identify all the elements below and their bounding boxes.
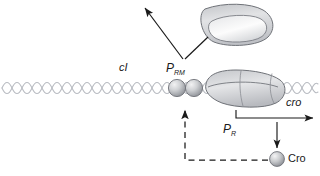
prm-promoter-label: PRM	[166, 61, 185, 75]
ci-gene-label: cI	[119, 61, 128, 73]
ci-repressor-sphere-right	[185, 79, 202, 96]
prm-pointer-arrow	[145, 8, 183, 59]
pr-promoter-label: PR	[223, 122, 236, 136]
pr-promoter-base: P	[223, 122, 231, 136]
figure-canvas	[0, 0, 320, 176]
pr-promoter-subscript: R	[231, 130, 236, 137]
lambda-switch-figure: cI cro Cro PRM PR	[0, 0, 320, 176]
prm-leader-line	[185, 37, 208, 59]
prm-promoter-base: P	[166, 61, 174, 75]
rna-polymerase-blob-bound	[206, 70, 285, 107]
pr-transcription-arrow	[236, 110, 313, 118]
cro-protein-label: Cro	[288, 152, 306, 164]
prm-pointer-group	[145, 8, 208, 59]
rna-polymerase-blob-free	[201, 4, 273, 45]
prm-promoter-subscript: RM	[174, 69, 185, 76]
cro-gene-label: cro	[286, 96, 301, 108]
cro-protein-sphere	[270, 152, 285, 167]
ci-repressor-sphere-left	[168, 79, 185, 96]
